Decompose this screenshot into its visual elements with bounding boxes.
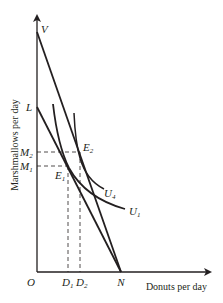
label-M1: M1 [19, 160, 33, 174]
label-D1: D1 [61, 276, 73, 290]
x-axis-label: Donuts per day [146, 281, 207, 292]
label-E2: E2 [82, 141, 94, 155]
label-N: N [116, 276, 125, 288]
indifference-curve-diagram: Marshmallows per day Donuts per day O V … [0, 0, 223, 303]
label-U1: U1 [129, 205, 140, 219]
origin-label: O [27, 276, 35, 288]
label-M2: M2 [19, 146, 33, 160]
label-U4: U4 [104, 187, 116, 201]
label-V: V [41, 23, 49, 35]
label-D2: D2 [75, 276, 88, 290]
label-E1: E1 [54, 169, 65, 183]
label-L: L [25, 101, 32, 113]
y-axis-label: Marshmallows per day [9, 99, 20, 191]
